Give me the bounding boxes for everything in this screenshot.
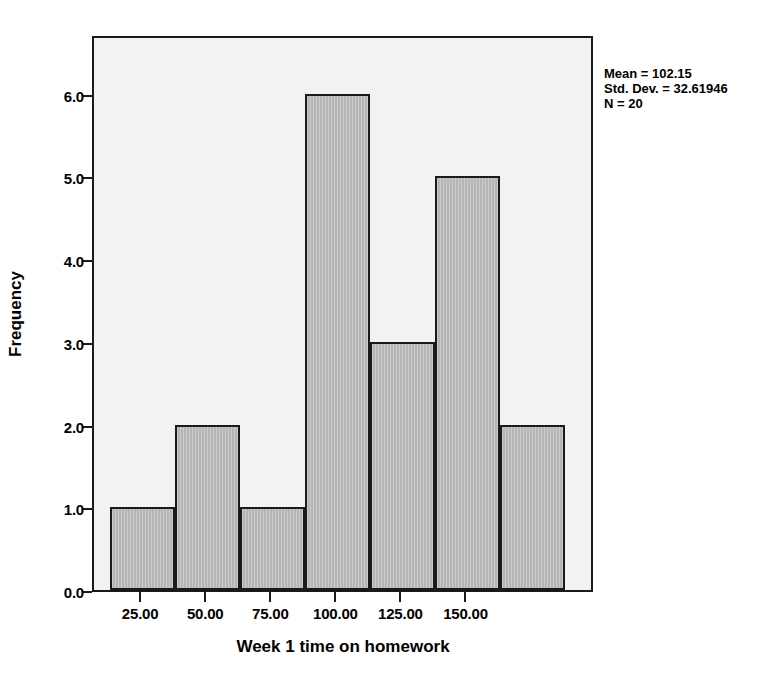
histogram-bar <box>370 342 435 590</box>
histogram-bar <box>500 425 565 590</box>
x-axis-tick-label: 150.00 <box>443 605 488 622</box>
x-axis-tick-mark <box>139 592 141 602</box>
y-axis-tick-mark <box>83 508 92 510</box>
y-axis-tick-marks <box>83 0 93 678</box>
std-dev-label: Std. Dev. = 32.61946 <box>604 81 728 96</box>
x-axis-tick-mark <box>334 592 336 602</box>
y-axis-tick-mark <box>83 260 92 262</box>
x-axis-tick-mark <box>269 592 271 602</box>
histogram-bar <box>305 94 370 590</box>
plot-area <box>92 36 593 592</box>
x-axis-tick-mark <box>464 592 466 602</box>
sample-size-label: N = 20 <box>604 96 728 111</box>
histogram-bar <box>110 507 175 590</box>
y-axis-tick-label: 2.0 <box>64 418 84 435</box>
y-axis-tick-mark <box>83 177 92 179</box>
statistics-annotation: Mean = 102.15 Std. Dev. = 32.61946 N = 2… <box>604 66 728 111</box>
x-axis-tick-label: 125.00 <box>378 605 423 622</box>
y-axis-tick-labels: 0.01.02.03.04.05.06.0 <box>40 0 84 678</box>
y-axis-tick-mark <box>83 343 92 345</box>
histogram-chart: 0.01.02.03.04.05.06.0 Frequency 25.0050.… <box>0 0 758 678</box>
histogram-bar <box>435 176 500 590</box>
y-axis-tick-label: 5.0 <box>64 170 84 187</box>
x-axis-tick-label: 50.00 <box>187 605 224 622</box>
y-axis-tick-label: 4.0 <box>64 253 84 270</box>
x-axis-title: Week 1 time on homework <box>236 637 449 657</box>
y-axis-title: Frequency <box>6 271 26 357</box>
bars-layer <box>94 38 591 590</box>
y-axis-tick-mark <box>83 426 92 428</box>
y-axis-tick-mark <box>83 95 92 97</box>
y-axis-tick-label: 1.0 <box>64 501 84 518</box>
histogram-bar <box>240 507 305 590</box>
x-axis-tick-label: 100.00 <box>313 605 358 622</box>
y-axis-tick-label: 3.0 <box>64 335 84 352</box>
y-axis-tick-label: 6.0 <box>64 87 84 104</box>
histogram-bar <box>175 425 240 590</box>
x-axis-tick-mark <box>399 592 401 602</box>
x-axis-tick-label: 25.00 <box>122 605 159 622</box>
x-axis-tick-mark <box>204 592 206 602</box>
mean-label: Mean = 102.15 <box>604 66 728 81</box>
x-axis-tick-label: 75.00 <box>252 605 289 622</box>
